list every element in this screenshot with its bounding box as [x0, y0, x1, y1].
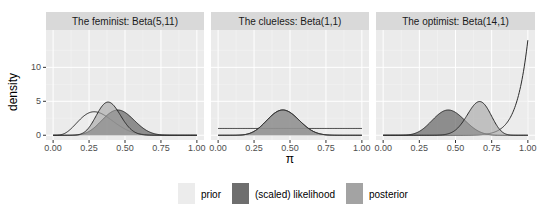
facet-strip-label: The optimist: Beta(14,1): [402, 16, 509, 27]
legend-label: posterior: [369, 189, 409, 200]
x-tick-label: 0.50: [116, 143, 134, 153]
y-axis-title: density: [6, 73, 20, 111]
facet-panel: The optimist: Beta(14,1)0.000.250.500.75…: [374, 12, 536, 153]
legend-label: (scaled) likelihood: [255, 189, 335, 200]
y-axis: 0510: [31, 62, 46, 140]
facet-strip-label: The clueless: Beta(1,1): [239, 16, 342, 27]
legend-key: [346, 183, 363, 204]
x-tick-label: 0.00: [44, 143, 62, 153]
x-axis-title: π: [286, 152, 294, 166]
legend-label: prior: [201, 189, 222, 200]
facet-strip-label: The feminist: Beta(5,11): [72, 16, 178, 27]
chart: The feminist: Beta(5,11)0.000.250.500.75…: [0, 0, 556, 219]
x-tick-label: 0.00: [374, 143, 392, 153]
x-tick-label: 0.25: [245, 143, 263, 153]
x-tick-label: 0.50: [447, 143, 465, 153]
y-tick-label: 10: [31, 62, 41, 72]
y-tick-label: 0: [36, 130, 41, 140]
x-tick-label: 0.75: [317, 143, 335, 153]
legend: prior(scaled) likelihoodposterior: [178, 183, 409, 204]
x-tick-label: 1.00: [353, 143, 371, 153]
x-tick-label: 1.00: [188, 143, 206, 153]
legend-key: [178, 183, 195, 204]
x-tick-label: 1.00: [519, 143, 537, 153]
facet-panel: The feminist: Beta(5,11)0.000.250.500.75…: [44, 12, 205, 153]
x-tick-label: 0.75: [483, 143, 501, 153]
x-tick-label: 0.25: [80, 143, 98, 153]
x-tick-label: 0.75: [152, 143, 170, 153]
facet-panels: The feminist: Beta(5,11)0.000.250.500.75…: [44, 12, 536, 153]
x-tick-label: 0.25: [411, 143, 429, 153]
legend-key: [232, 183, 249, 204]
y-tick-label: 5: [36, 96, 41, 106]
facet-panel: The clueless: Beta(1,1)0.000.250.500.751…: [209, 12, 370, 153]
x-tick-label: 0.00: [209, 143, 227, 153]
